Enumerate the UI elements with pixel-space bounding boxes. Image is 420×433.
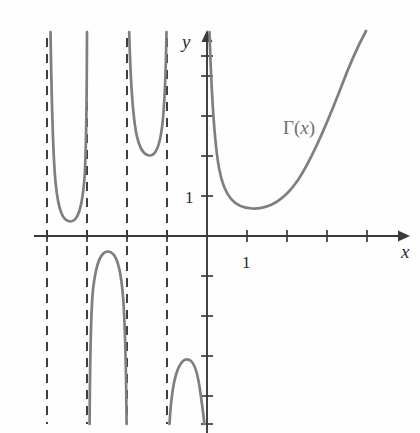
gamma-curve-group [51,31,367,424]
gamma-label-paren: ) [309,117,315,139]
gamma-branch-neg2-neg1 [129,32,166,156]
y-axis-label: y [180,31,191,52]
x-axis-arrowhead [398,231,410,242]
gamma-branch-neg3-neg2 [90,251,127,424]
gamma-curve-label: Γ(x) [283,117,315,139]
gamma-function-figure: y x 1 1 Γ(x) [0,0,420,433]
gamma-label-symbol: Γ( [283,117,300,139]
x-axis-label: x [400,241,410,262]
gamma-branch-neg1-zero [170,359,205,424]
x-axis [34,230,410,242]
x-tick-label-1: 1 [242,253,251,272]
y-tick-label-1: 1 [185,188,194,207]
asymptote-group [47,38,167,424]
gamma-branch-neg4-neg3 [51,32,88,222]
plot-canvas: y x 1 1 Γ(x) [0,0,420,433]
